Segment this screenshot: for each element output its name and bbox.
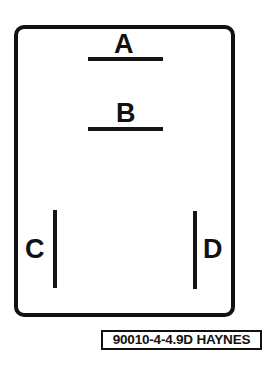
terminal-label-b: B [116,100,136,127]
terminal-c-blade [53,210,57,288]
figure-code-label: 90010-4-4.9D HAYNES [113,333,251,347]
terminal-label-d: D [203,236,223,263]
figure-code-box: 90010-4-4.9D HAYNES [101,330,262,350]
terminal-label-a: A [114,31,134,58]
terminal-d-blade [193,211,197,289]
component-outline [14,25,235,317]
terminal-a-blade [88,57,163,61]
terminal-label-c: C [25,236,45,263]
terminal-b-blade [88,127,163,131]
